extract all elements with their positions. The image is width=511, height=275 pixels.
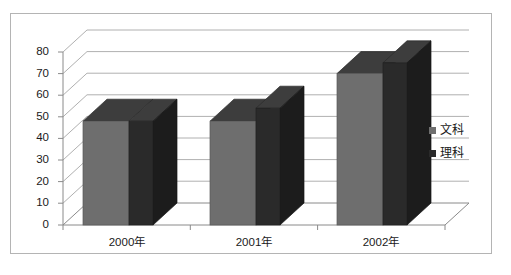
ytick-label-70: 70 [23, 68, 49, 79]
bar-front-face [129, 121, 153, 225]
bar-front-face [383, 63, 407, 225]
bar-front-face [210, 121, 256, 225]
bar-front-face [337, 74, 383, 225]
bar-2000-like [129, 99, 177, 225]
legend-swatch-like-icon [429, 150, 436, 157]
bar-chart-3d [11, 14, 493, 255]
legend-label-wenke: 文科 [440, 124, 464, 136]
xtick-label-2000: 2000年 [87, 236, 167, 248]
bar-2001-like [256, 86, 304, 225]
legend-swatch-wenke-icon [429, 127, 436, 134]
ytick-label-40: 40 [23, 132, 49, 143]
chart-frame: 80 70 60 50 40 30 20 10 0 2000年 2001年 20… [10, 13, 492, 254]
bar-side-face [153, 99, 177, 225]
ytick-label-80: 80 [23, 46, 49, 57]
xtick-label-2002: 2002年 [341, 236, 421, 248]
chart-plot-area: 80 70 60 50 40 30 20 10 0 2000年 2001年 20… [11, 14, 493, 255]
legend-label-like: 理科 [440, 147, 464, 159]
bar-front-face [256, 108, 280, 225]
legend-item-wenke[interactable]: 文科 [429, 124, 464, 136]
legend-item-like[interactable]: 理科 [429, 147, 464, 159]
ytick-label-10: 10 [23, 197, 49, 208]
bar-side-face [280, 86, 304, 225]
ytick-label-20: 20 [23, 176, 49, 187]
ytick-label-50: 50 [23, 111, 49, 122]
floor-right-edge [445, 203, 469, 225]
x-axis-ticks [63, 225, 445, 230]
ytick-label-60: 60 [23, 89, 49, 100]
xtick-label-2001: 2001年 [214, 236, 294, 248]
bar-2002-like [383, 41, 431, 225]
bar-side-face [407, 41, 431, 225]
ytick-label-0: 0 [23, 219, 49, 230]
ytick-label-30: 30 [23, 154, 49, 165]
y-axis [58, 52, 63, 225]
bar-front-face [83, 121, 129, 225]
